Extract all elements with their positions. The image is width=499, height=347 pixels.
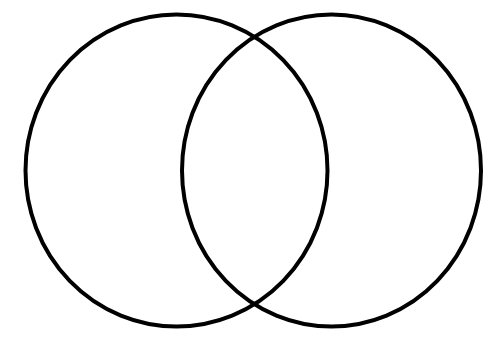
venn-circle-left bbox=[26, 15, 328, 327]
venn-diagram bbox=[0, 0, 499, 347]
venn-circle-right bbox=[182, 15, 481, 327]
